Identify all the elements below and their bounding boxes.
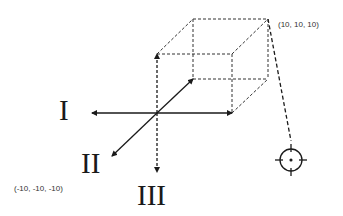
axis-1-label: I [59,96,69,125]
axis-2-label: II [81,149,100,178]
projection-line [268,19,291,141]
min-corner-label: (-10, -10, -10) [14,185,63,193]
axis-2-positive [157,79,193,113]
cube-wireframe [157,19,268,113]
axis-3-label: III [137,181,166,210]
coordinate-diagram: I II III (10, 10, 10) (-10, -10, -10) [0,0,343,216]
crosshair-icon [275,144,307,176]
max-corner-label: (10, 10, 10) [278,21,319,29]
axis-2-negative [112,113,157,156]
